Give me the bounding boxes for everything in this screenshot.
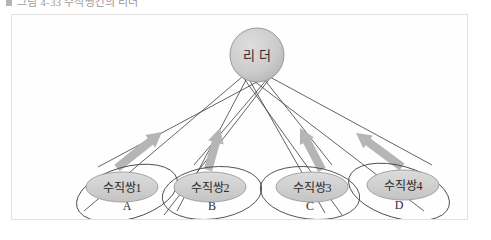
square-bullet-icon [6,0,12,6]
group-a-label: 수직쌍1 [103,181,142,195]
figure-caption: 그림 4-33 수직쌍간의 리더 [6,0,486,7]
group-d-label: 수직쌍4 [384,179,423,193]
link-line-1 [98,75,270,167]
link-line-7 [270,77,432,165]
link-line-3 [194,78,268,165]
group-c-label: 수직쌍3 [293,181,332,195]
leader-node[interactable]: 리 더 [230,28,284,82]
leader-label: 리 더 [243,48,270,63]
arrow-group-c [300,128,326,172]
group-b-label: 수직쌍2 [191,181,230,195]
figure-caption-text: 그림 4-33 수직쌍간의 리더 [17,0,139,7]
diagram-frame: A수직쌍1B수직쌍2C수직쌍3D수직쌍4 리 더 [11,14,468,220]
relationship-diagram: A수직쌍1B수직쌍2C수직쌍3D수직쌍4 리 더 [12,15,468,220]
